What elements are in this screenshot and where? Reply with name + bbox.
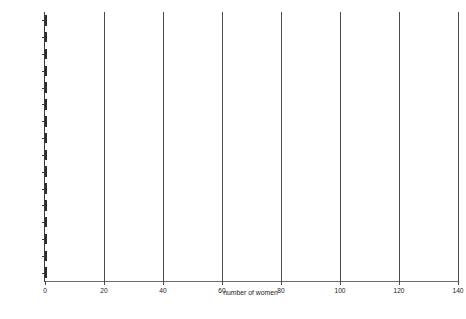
bar-fill [45, 66, 47, 77]
y-tick-hubei [42, 189, 45, 190]
y-tick-jiangxi [42, 71, 45, 72]
bar-anhui [45, 200, 75, 211]
bar-fill [45, 200, 47, 211]
bar-fill [45, 49, 47, 60]
y-tick-shandong [42, 121, 45, 122]
bar-chart: 020406080100120140ShaanxiHenanFujianJian… [0, 0, 466, 319]
gridline-140 [458, 12, 459, 281]
bar-fill [45, 150, 47, 161]
bar-hebei [45, 82, 51, 93]
bar-hubei [45, 183, 75, 194]
bar-fill [45, 267, 47, 278]
y-tick-unknown [42, 222, 45, 223]
bar-jiangbei [45, 251, 302, 262]
bar-zhejiang [45, 234, 254, 245]
plot-area: 020406080100120140ShaanxiHenanFujianJian… [44, 12, 458, 282]
bar-fill [45, 217, 47, 228]
y-tick-shaanxi [42, 20, 45, 21]
bar-fill [45, 251, 47, 262]
bar-sichan [45, 166, 69, 177]
y-tick-guandong [42, 138, 45, 139]
y-tick-henan [42, 37, 45, 38]
bar-shaanxi [45, 15, 48, 26]
y-tick-jiangnan [42, 273, 45, 274]
bar-fill [45, 234, 47, 245]
x-tick-100 [340, 281, 341, 285]
y-tick-fujian [42, 54, 45, 55]
y-tick-anhui [42, 205, 45, 206]
x-tick-120 [399, 281, 400, 285]
bar-fill [45, 133, 47, 144]
bar-fill [45, 183, 47, 194]
bar-fill [45, 116, 47, 127]
y-tick-guangxi [42, 104, 45, 105]
bar-henan [45, 32, 48, 43]
y-tick-jiangbei [42, 256, 45, 257]
bar-fill [45, 82, 47, 93]
x-tick-20 [104, 281, 105, 285]
y-tick-hunan [42, 155, 45, 156]
x-tick-140 [458, 281, 459, 285]
x-tick-80 [281, 281, 282, 285]
x-tick-40 [163, 281, 164, 285]
bar-guangxi [45, 99, 57, 110]
bar-jiangxi [45, 66, 51, 77]
bar-unknown [45, 217, 113, 228]
bar-fill [45, 15, 47, 26]
x-tick-0 [45, 281, 46, 285]
gridline-100 [340, 12, 341, 281]
y-tick-hebei [42, 88, 45, 89]
y-tick-zhejiang [42, 239, 45, 240]
bar-fujian [45, 49, 48, 60]
x-axis-title: number of women [44, 289, 457, 296]
bar-fill [45, 32, 47, 43]
bar-guandong [45, 133, 63, 144]
bar-jiangnan [45, 267, 390, 278]
gridline-120 [399, 12, 400, 281]
y-tick-sichan [42, 172, 45, 173]
gridline-80 [281, 12, 282, 281]
bar-fill [45, 99, 47, 110]
bar-hunan [45, 150, 66, 161]
bar-shandong [45, 116, 60, 127]
bar-fill [45, 166, 47, 177]
x-tick-60 [222, 281, 223, 285]
